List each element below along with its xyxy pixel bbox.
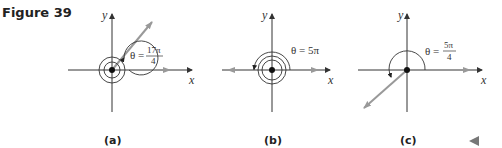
angle-label: θ = [130,49,144,61]
figure-diagrams: y x θ = 17π 4 (a) y x θ = 5π (b) y x θ =… [0,0,502,148]
y-label: y [101,8,108,22]
terminal-side-ray [112,22,152,70]
panel-b: y x θ = 5π (b) [222,8,334,147]
x-label: x [188,73,195,87]
angle-label: θ = 5π [291,44,319,56]
back-triangle-icon[interactable] [469,136,479,146]
caption-c: (c) [400,134,417,147]
angle-numerator: 17π [147,45,161,55]
panel-c: y x θ = 5π 4 (c) [358,8,487,147]
panel-a: y x θ = 17π 4 (a) [68,8,195,147]
angle-denominator: 4 [151,56,156,66]
y-label: y [261,8,268,22]
origin-dot [269,67,275,73]
caption-a: (a) [104,134,121,147]
caption-b: (b) [264,134,282,147]
terminal-side-ray [364,70,407,108]
origin-dot [109,67,115,73]
x-label: x [480,73,487,87]
x-label: x [327,73,334,87]
angle-denominator: 4 [447,52,452,62]
origin-dot [404,67,410,73]
y-label: y [397,8,404,22]
angle-numerator: 5π [444,40,454,50]
angle-label: θ = [425,45,439,57]
